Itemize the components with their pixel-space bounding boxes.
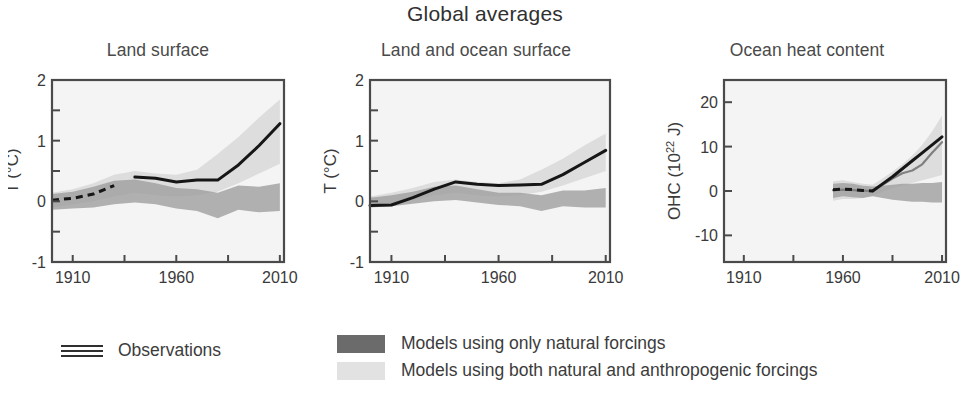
x-tick-label: 1910 [374,269,410,286]
plot-area: 191019602010-1012T (°C) [8,40,308,290]
y-axis-label: T (°C) [8,148,22,193]
legend-swatch-natural [337,335,385,353]
legend-swatch-anthropogenic [337,362,385,380]
y-tick-label: -1 [350,254,364,271]
figure-title: Global averages [0,2,970,26]
legend-label-natural: Models using only natural forcings [401,333,666,354]
legend-item-natural: Models using only natural forcings [337,330,817,357]
x-tick-label: 2010 [262,269,298,286]
panel-ocean-heat-content: Ocean heat content 191019602010-1001020O… [648,40,966,290]
legend-models-group: Models using only natural forcings Model… [337,330,817,384]
y-tick-label: 2 [355,72,364,89]
x-tick-label: 1960 [825,269,861,286]
y-axis-label: OHC (1022 J) [664,122,684,220]
x-tick-label: 2010 [924,269,960,286]
y-axis-label: T (°C) [321,148,340,193]
x-tick-label: 1910 [55,269,91,286]
y-tick-label: 0 [37,193,46,210]
x-tick-label: 1960 [481,269,517,286]
figure-legend: Observations Models using only natural f… [0,318,970,406]
plot-area: 191019602010-1001020OHC (1022 J) [648,40,966,290]
y-tick-label: 2 [37,72,46,89]
y-tick-label: 10 [700,139,718,156]
y-tick-label: -10 [695,227,718,244]
legend-item-anthropogenic: Models using both natural and anthropoge… [337,357,817,384]
observations-line-icon [60,343,104,359]
x-tick-label: 1960 [158,269,194,286]
climate-attribution-figure: Global averages Land surface 19101960201… [0,0,970,406]
y-tick-label: 0 [355,193,364,210]
legend-label-anthropogenic: Models using both natural and anthropoge… [401,360,817,381]
plot-area: 191019602010-1012T (°C) [318,40,634,290]
y-tick-label: 1 [355,133,364,150]
x-tick-label: 2010 [588,269,624,286]
y-tick-label: 1 [37,133,46,150]
y-tick-label: 20 [700,94,718,111]
y-tick-label: 0 [709,183,718,200]
panel-land-surface: Land surface 191019602010-1012T (°C) [8,40,308,290]
legend-label-observations: Observations [118,340,221,361]
x-tick-label: 1910 [726,269,762,286]
panel-land-and-ocean-surface: Land and ocean surface 191019602010-1012… [318,40,634,290]
legend-item-observations: Observations [60,340,221,361]
y-tick-label: -1 [32,254,46,271]
